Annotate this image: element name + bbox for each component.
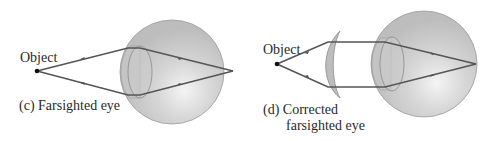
- eye-lens-c: [128, 46, 152, 98]
- corrective-lens: [326, 31, 340, 98]
- object-label-d: Object: [263, 42, 300, 58]
- optics-diagram: Object (c) Farsighted eye Object (d) Cor…: [0, 0, 497, 141]
- caption-d-line2: farsighted eye: [286, 118, 365, 134]
- object-point-c: [35, 69, 40, 74]
- caption-c: (c) Farsighted eye: [19, 98, 120, 114]
- diagram-canvas: [0, 0, 497, 141]
- object-label-c: Object: [20, 50, 57, 66]
- object-point-d: [275, 62, 280, 67]
- caption-d-line1: (d) Corrected: [263, 102, 338, 118]
